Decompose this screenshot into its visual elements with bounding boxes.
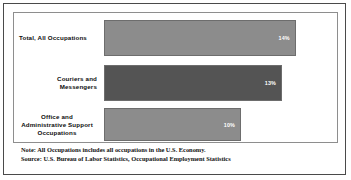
bar-value-label: 13% — [265, 80, 276, 86]
bar-couriers-and-messengers: 13% — [104, 65, 282, 101]
bar-office-and-administrative-support-occupations: 10% — [104, 108, 241, 141]
bar-value-label: 10% — [224, 122, 235, 128]
category-label: Office and Administrative Support Occupa… — [14, 112, 100, 137]
footnote-note: Note: All Occupations includes all occup… — [13, 146, 338, 155]
bar-total-all-occupations: 14% — [104, 20, 296, 56]
category-label-line: Messengers — [60, 83, 97, 90]
category-label: Total, All Occupations — [14, 34, 100, 42]
footnote-block: Note: All Occupations includes all occup… — [13, 146, 338, 163]
category-label: Couriers and Messengers — [14, 75, 100, 91]
category-label-line: Total, All Occupations — [19, 34, 87, 41]
category-label-line: Administrative Support — [21, 120, 93, 127]
bar-row: Office and Administrative Support Occupa… — [14, 108, 337, 141]
category-label-line: Couriers and — [57, 75, 97, 82]
bar-row: Couriers and Messengers 13% — [14, 65, 337, 101]
category-label-line: Office and — [41, 112, 73, 119]
chart-figure: Total, All Occupations 14% Couriers and … — [3, 3, 346, 175]
footnote-source: Source: U.S. Bureau of Labor Statistics,… — [13, 155, 338, 164]
category-label-line: Occupations — [37, 129, 76, 136]
bar-row: Total, All Occupations 14% — [14, 20, 337, 56]
bar-chart-plot-area: Total, All Occupations 14% Couriers and … — [13, 12, 338, 143]
bar-value-label: 14% — [279, 35, 290, 41]
